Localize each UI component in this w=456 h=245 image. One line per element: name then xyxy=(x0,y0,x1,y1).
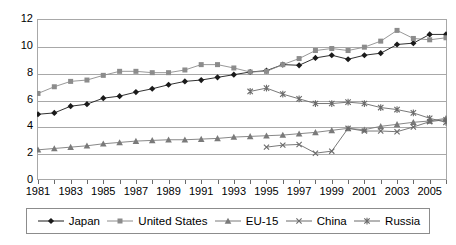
chart-container: 024681012 198119831985198719891991199319… xyxy=(0,0,456,245)
x-tick xyxy=(185,180,186,184)
x-tick xyxy=(430,180,431,184)
legend-item-russia[interactable]: Russia xyxy=(352,215,420,227)
x-tick xyxy=(71,180,72,184)
data-point-marker xyxy=(280,91,285,98)
data-point-marker xyxy=(133,69,138,74)
square-marker-icon xyxy=(105,215,135,227)
legend-label: EU-15 xyxy=(246,215,279,227)
x-tick xyxy=(266,180,267,184)
series-eu-15 xyxy=(37,115,447,153)
x-tick xyxy=(446,180,447,184)
series-united-states xyxy=(37,28,447,96)
legend-label: Japan xyxy=(69,215,100,227)
data-point-marker xyxy=(312,55,318,61)
data-point-marker xyxy=(150,70,155,75)
data-point-marker xyxy=(264,69,269,74)
data-point-marker xyxy=(410,40,416,46)
x-tick xyxy=(234,180,235,184)
legend-label: Russia xyxy=(385,215,420,227)
data-point-marker xyxy=(117,93,123,99)
y-tick-label: 12 xyxy=(3,13,33,24)
y-tick-label: 6 xyxy=(3,94,33,105)
x-tick xyxy=(120,180,121,184)
series-japan xyxy=(37,31,447,117)
data-point-marker xyxy=(394,41,400,47)
x-tick xyxy=(87,180,88,184)
data-point-marker xyxy=(37,111,41,117)
data-point-marker xyxy=(296,95,301,102)
x-tick xyxy=(136,180,137,184)
legend-item-eu-15[interactable]: EU-15 xyxy=(213,215,279,227)
y-tick-label: 8 xyxy=(3,67,33,78)
data-point-marker xyxy=(361,52,367,58)
x-tick xyxy=(38,180,39,184)
data-point-marker xyxy=(248,69,253,74)
data-point-marker xyxy=(51,110,57,116)
x-tick xyxy=(152,180,153,184)
data-point-marker xyxy=(427,115,432,122)
legend-item-china[interactable]: China xyxy=(284,215,347,227)
data-point-marker xyxy=(182,78,188,84)
x-tick xyxy=(169,180,170,184)
legend-label: United States xyxy=(138,215,207,227)
data-point-marker xyxy=(313,48,318,53)
data-point-marker xyxy=(427,31,433,37)
chart-legend: JapanUnited StatesEU-15ChinaRussia xyxy=(26,208,430,234)
data-point-marker xyxy=(444,35,448,40)
data-point-marker xyxy=(231,65,236,70)
data-point-marker xyxy=(215,62,220,67)
star-marker-icon xyxy=(352,215,382,227)
data-point-marker xyxy=(378,50,384,56)
data-point-marker xyxy=(329,46,334,51)
x-tick xyxy=(413,180,414,184)
x-tick xyxy=(332,180,333,184)
y-tick-label: 0 xyxy=(3,174,33,185)
data-point-marker xyxy=(280,62,285,67)
x-axis-labels: 1981198319851987198919911993199519971999… xyxy=(0,185,456,201)
data-point-marker xyxy=(345,56,351,62)
series-line xyxy=(38,118,446,150)
x-tick xyxy=(54,180,55,184)
data-point-marker xyxy=(149,86,155,92)
x-tick xyxy=(397,180,398,184)
series-line xyxy=(38,30,446,93)
data-point-marker xyxy=(296,62,302,68)
data-point-marker xyxy=(362,45,367,50)
data-series-layer xyxy=(37,19,447,180)
series-russia xyxy=(247,85,447,126)
data-point-marker xyxy=(37,91,41,96)
data-point-marker xyxy=(68,79,73,84)
series-china xyxy=(264,117,447,156)
data-point-marker xyxy=(68,103,74,109)
x-tick-label: 2005 xyxy=(410,185,450,198)
x-tick xyxy=(348,180,349,184)
data-point-marker xyxy=(198,77,204,83)
data-point-marker xyxy=(166,70,171,75)
data-point-marker xyxy=(117,69,122,74)
data-point-marker xyxy=(100,95,106,101)
x-tick xyxy=(364,180,365,184)
x-tick xyxy=(250,180,251,184)
triangle-marker-icon xyxy=(213,215,243,227)
y-tick-label: 4 xyxy=(3,120,33,131)
data-point-marker xyxy=(346,48,351,53)
data-point-marker xyxy=(52,84,57,89)
legend-item-united-states[interactable]: United States xyxy=(105,215,207,227)
y-axis: 024681012 xyxy=(0,0,33,200)
x-marker-icon xyxy=(284,215,314,227)
data-point-marker xyxy=(378,39,383,44)
data-point-marker xyxy=(411,124,416,129)
x-tick xyxy=(218,180,219,184)
x-tick xyxy=(103,180,104,184)
data-point-marker xyxy=(329,52,335,58)
data-point-marker xyxy=(231,72,237,78)
legend-item-japan[interactable]: Japan xyxy=(36,215,100,227)
legend-label: China xyxy=(317,215,347,227)
x-tick xyxy=(283,180,284,184)
data-point-marker xyxy=(395,28,400,33)
data-point-marker xyxy=(165,82,171,88)
x-tick xyxy=(299,180,300,184)
data-point-marker xyxy=(84,101,90,107)
x-tick xyxy=(381,180,382,184)
data-point-marker xyxy=(297,56,302,61)
